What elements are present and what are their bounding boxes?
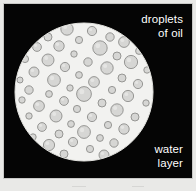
oil-droplet: [87, 26, 96, 35]
oil-droplet-highlight: [50, 76, 54, 80]
oil-droplet-highlight: [127, 58, 131, 62]
oil-droplet: [133, 79, 142, 88]
oil-droplet-highlight: [89, 28, 92, 31]
oil-droplet: [73, 105, 80, 112]
oil-droplet-highlight: [80, 128, 84, 132]
oil-droplet: [143, 100, 149, 106]
oil-droplet: [124, 55, 137, 68]
oil-droplet: [44, 33, 52, 41]
caption-strip: [0, 179, 196, 191]
oil-droplet: [26, 113, 32, 119]
oil-droplet: [104, 121, 111, 128]
oil-droplet: [77, 87, 92, 102]
oil-droplet: [101, 62, 113, 74]
oil-droplet: [75, 36, 82, 43]
oil-droplet-highlight: [56, 43, 60, 47]
oil-droplet-highlight: [89, 114, 92, 117]
oil-droplet: [113, 52, 121, 60]
oil-droplet: [50, 110, 62, 122]
oil-droplet-highlight: [62, 64, 65, 67]
oil-droplet: [60, 62, 69, 71]
oil-droplet: [34, 101, 45, 112]
emulsion-figure-page: droplets of oil water layer: [0, 0, 196, 191]
oil-droplet-highlight: [103, 64, 107, 68]
oil-droplet: [118, 74, 126, 82]
oil-droplet: [87, 112, 96, 121]
oil-droplet: [30, 134, 36, 140]
oil-droplet-highlight: [31, 69, 34, 72]
oil-droplet-highlight: [70, 139, 73, 142]
oil-droplet: [19, 97, 25, 103]
oil-droplet-highlight: [34, 44, 37, 47]
oil-droplet: [93, 41, 107, 55]
label-droplets-of-oil: droplets of oil: [141, 13, 183, 40]
oil-droplet-highlight: [52, 112, 56, 116]
oil-droplet: [108, 86, 115, 93]
oil-droplet-highlight: [91, 78, 95, 82]
oil-droplet: [122, 90, 133, 101]
oil-droplet-highlight: [135, 81, 138, 84]
oil-droplet: [67, 85, 73, 91]
oil-droplet: [68, 137, 77, 146]
oil-droplet: [86, 145, 93, 152]
oil-droplet-highlight: [121, 38, 125, 42]
oil-droplet-highlight: [101, 152, 104, 155]
oil-droplet: [76, 72, 83, 79]
oil-droplet: [55, 130, 63, 138]
oil-droplet-highlight: [39, 124, 42, 127]
oil-droplet: [119, 124, 129, 134]
oil-droplet: [17, 77, 23, 83]
oil-droplet: [78, 126, 91, 139]
oil-droplet: [71, 51, 77, 57]
oil-droplet-highlight: [45, 141, 49, 145]
oil-droplet: [54, 41, 64, 51]
oil-droplet: [38, 123, 47, 132]
oil-droplet: [89, 77, 100, 88]
oil-droplet-highlight: [36, 102, 40, 106]
oil-droplet: [110, 139, 118, 147]
oil-droplet: [60, 97, 69, 106]
oil-droplet: [97, 135, 104, 142]
oil-droplet-highlight: [113, 106, 117, 110]
oil-droplet: [29, 67, 39, 77]
caption-artifact-left: [72, 186, 86, 187]
label-water-layer: water layer: [154, 143, 183, 170]
oil-droplet: [131, 113, 139, 121]
oil-droplet-highlight: [124, 92, 128, 96]
oil-droplet: [42, 54, 54, 66]
oil-droplet-highlight: [121, 126, 125, 130]
figure-frame: droplets of oil water layer: [3, 3, 193, 179]
oil-droplet: [98, 99, 106, 107]
oil-droplet: [46, 91, 53, 98]
oil-droplet: [111, 104, 123, 116]
oil-droplet-highlight: [95, 43, 100, 48]
oil-droplet: [106, 33, 114, 41]
oil-droplet: [25, 86, 33, 94]
oil-droplet-highlight: [44, 56, 48, 60]
oil-droplet-highlight: [79, 89, 84, 94]
caption-artifact-right: [132, 186, 144, 187]
oil-droplet: [48, 74, 61, 87]
oil-droplet-highlight: [61, 98, 64, 101]
oil-droplet: [84, 58, 92, 66]
oil-droplet: [68, 121, 75, 128]
